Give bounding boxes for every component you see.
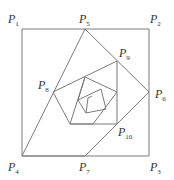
square-5 [78,89,106,113]
label-P8: P8 [37,78,49,94]
square-4 [70,77,117,124]
label-P10: P10 [117,125,133,141]
spiral-tail [86,96,92,113]
label-P7: P7 [78,160,90,176]
square-3 [53,61,117,124]
label-P2: P2 [149,12,161,28]
label-P4: P4 [7,160,19,176]
edge-85-77-78-100 [78,77,85,100]
label-P6: P6 [154,87,166,103]
point-labels: P1 P2 P3 P4 P5 P6 P7 P8 P9 P10 [7,12,166,176]
label-P5: P5 [78,12,90,28]
label-P9: P9 [118,46,130,62]
label-P1: P1 [7,12,19,28]
label-P3: P3 [149,160,161,176]
spiral-diagram: P1 P2 P3 P4 P5 P6 P7 P8 P9 P10 [0,0,174,180]
